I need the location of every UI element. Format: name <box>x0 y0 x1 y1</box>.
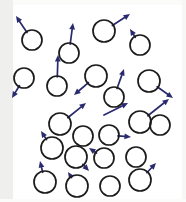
particle-p19 <box>66 175 88 197</box>
particle-vector-canvas <box>0 0 186 202</box>
velocity-vector-p02 <box>69 23 75 44</box>
particle-p16 <box>94 148 114 168</box>
particle-p12 <box>73 126 93 146</box>
particle-p02 <box>59 43 79 63</box>
velocity-vector-p08 <box>117 69 125 89</box>
particle-p09 <box>138 70 160 92</box>
velocity-vector-shaft <box>79 83 89 91</box>
particle-p10 <box>129 111 151 133</box>
velocity-vector-p11 <box>68 103 86 118</box>
particle-p04 <box>130 35 150 55</box>
particle-p01 <box>22 30 42 50</box>
particle-circle-layer <box>14 20 170 197</box>
velocity-vector-arrowhead <box>119 69 124 76</box>
velocity-vector-arrowhead <box>69 23 75 30</box>
particle-p18 <box>34 171 56 193</box>
particle-p03 <box>93 20 115 42</box>
particle-p13 <box>99 125 119 145</box>
particle-p17 <box>126 147 146 167</box>
velocity-vector-p21 <box>147 163 156 173</box>
particle-p21 <box>129 169 151 191</box>
particle-p05 <box>14 68 34 88</box>
velocity-vector-shaft <box>68 107 81 118</box>
particle-p22 <box>150 115 170 135</box>
particle-diagram-figure <box>0 0 186 202</box>
velocity-vector-arrowhead <box>124 134 131 140</box>
particle-p06 <box>47 76 67 96</box>
particle-p15 <box>65 146 87 168</box>
velocity-vector-p05 <box>12 86 19 98</box>
velocity-vector-arrowhead <box>39 161 45 168</box>
velocity-vector-p09 <box>157 87 173 98</box>
particle-p14 <box>41 137 63 159</box>
velocity-vector-shaft <box>157 87 168 94</box>
particle-p07 <box>85 65 107 87</box>
velocity-vector-shaft <box>57 61 58 77</box>
velocity-vector-p13 <box>118 134 131 140</box>
velocity-vector-shaft <box>112 18 124 26</box>
particle-p20 <box>100 176 120 196</box>
velocity-vector-shaft <box>70 29 72 44</box>
particle-p08 <box>104 87 124 107</box>
velocity-vector-shaft <box>20 21 27 32</box>
velocity-vector-shaft <box>148 103 164 116</box>
velocity-vector-p07 <box>74 83 88 95</box>
velocity-vector-p10 <box>148 99 169 116</box>
velocity-vector-p03 <box>112 14 130 26</box>
velocity-vector-shaft <box>117 75 122 88</box>
velocity-vector-p01 <box>16 16 27 33</box>
particle-p11 <box>49 113 71 135</box>
